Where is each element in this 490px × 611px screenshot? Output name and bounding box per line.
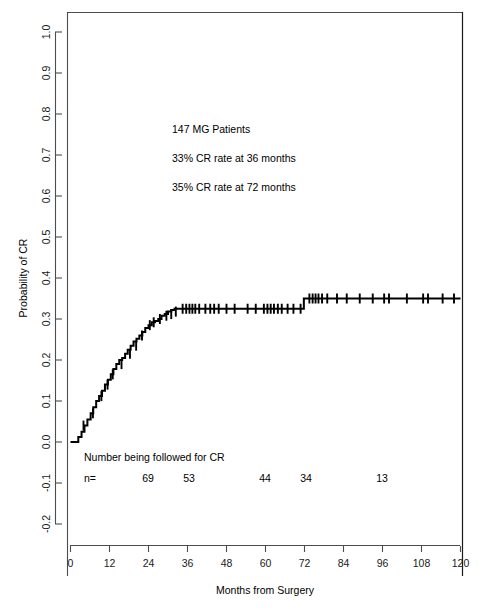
y-tick-1.0: 1.0 [40,25,62,40]
y-axis: 1.0 0.9 0.8 0.7 0.6 0.5 [17,25,62,533]
y-ticklabel: 0.1 [40,394,52,409]
x-axis: 0 12 24 36 48 60 [68,546,470,597]
x-tick-12: 12 [104,546,116,569]
x-tick-0: 0 [68,546,74,569]
km-plot-figure: 1.0 0.9 0.8 0.7 0.6 0.5 [0,0,490,611]
x-ticklabel: 12 [104,557,116,569]
y-tick-0.5: 0.5 [40,230,62,245]
x-tick-72: 72 [299,546,311,569]
x-tick-108: 108 [413,546,431,569]
x-ticklabel: 36 [182,557,194,569]
y-ticklabel: 0.6 [40,189,52,204]
y-tick-neg0.2: -0.2 [40,515,62,533]
x-tick-84: 84 [338,546,350,569]
y-tick-0.0: 0.0 [40,435,62,450]
y-ticklabel: 0.3 [40,312,52,327]
risk-table-heading: Number being followed for CR [84,451,225,463]
y-ticklabel: 0.7 [40,148,52,163]
chart-svg: 1.0 0.9 0.8 0.7 0.6 0.5 [0,0,490,611]
x-tick-120: 120 [452,546,470,569]
y-ticklabel: 0.0 [40,435,52,450]
y-tick-0.2: 0.2 [40,353,62,368]
y-ticklabel: 0.8 [40,107,52,122]
risk-count: 69 [142,472,154,484]
y-ticklabel: 1.0 [40,25,52,40]
x-tick-36: 36 [182,546,194,569]
y-tick-neg0.1: -0.1 [40,474,62,492]
risk-count: 34 [300,472,312,484]
y-tick-0.8: 0.8 [40,107,62,122]
x-ticklabel: 120 [452,557,470,569]
y-tick-0.3: 0.3 [40,312,62,327]
y-ticklabel: -0.2 [40,515,52,533]
y-ticklabel: -0.1 [40,474,52,492]
plot-frame [67,12,463,576]
y-ticklabel: 0.4 [40,271,52,286]
risk-table-row-label: n= [84,472,96,484]
y-tick-0.1: 0.1 [40,394,62,409]
km-step-curve [71,299,461,443]
x-tick-24: 24 [143,546,155,569]
risk-count: 13 [376,472,388,484]
x-axis-title: Months from Surgery [216,584,315,596]
y-ticklabel: 0.2 [40,353,52,368]
y-tick-0.4: 0.4 [40,271,62,286]
x-tick-48: 48 [221,546,233,569]
x-ticklabel: 96 [377,557,389,569]
x-ticklabel: 108 [413,557,431,569]
annotation-patients: 147 MG Patients [172,123,250,135]
risk-count: 44 [259,472,271,484]
annotation-cr36: 33% CR rate at 36 months [172,152,296,164]
y-tick-0.9: 0.9 [40,66,62,81]
x-ticklabel: 84 [338,557,350,569]
x-tick-96: 96 [377,546,389,569]
y-ticklabel: 0.9 [40,66,52,81]
risk-table: Number being followed for CR n= 69 53 44… [84,451,388,484]
annotations-group: 147 MG Patients 33% CR rate at 36 months… [172,123,296,193]
y-tick-0.7: 0.7 [40,148,62,163]
x-ticklabel: 24 [143,557,155,569]
km-curve-group [71,294,461,443]
y-tick-0.6: 0.6 [40,189,62,204]
x-tick-60: 60 [260,546,272,569]
censor-marks-group [84,294,455,431]
x-ticklabel: 48 [221,557,233,569]
x-ticklabel: 60 [260,557,272,569]
y-ticklabel: 0.5 [40,230,52,245]
y-axis-title: Probability of CR [17,238,29,317]
x-ticklabel: 0 [68,557,74,569]
x-ticklabel: 72 [299,557,311,569]
risk-count: 53 [183,472,195,484]
annotation-cr72: 35% CR rate at 72 months [172,181,296,193]
